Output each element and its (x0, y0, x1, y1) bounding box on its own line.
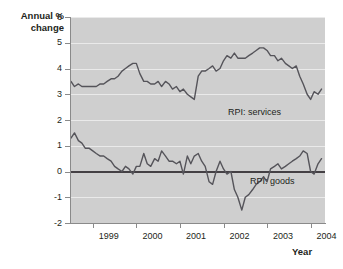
series-label-goods: RPI: goods (250, 176, 295, 186)
y-tick-label: 0 (38, 167, 62, 176)
y-tick-label: 2 (38, 116, 62, 125)
line-rpi-goods (71, 133, 322, 210)
y-tick (65, 94, 70, 95)
y-tick-label: 5 (38, 38, 62, 47)
x-tick (267, 223, 268, 228)
y-tick (65, 146, 70, 147)
x-tick-label: 2000 (142, 231, 182, 241)
x-tick-label: 2004 (317, 231, 343, 241)
series-lines (71, 17, 325, 223)
y-tick (65, 120, 70, 121)
chart-figure: Annual % change 6543210-1-2 199920002001… (0, 0, 343, 269)
y-tick (65, 197, 70, 198)
y-tick (65, 172, 70, 173)
x-tick (224, 223, 225, 228)
x-tick (311, 223, 312, 228)
series-label-services: RPI: services (228, 107, 281, 117)
x-axis-title: Year (292, 246, 312, 257)
y-tick-label: 3 (38, 90, 62, 99)
y-tick (65, 69, 70, 70)
y-tick (65, 17, 70, 18)
x-tick-label: 1999 (99, 231, 139, 241)
x-axis-line (70, 223, 326, 224)
plot-area (71, 17, 325, 223)
x-tick-label: 2001 (186, 231, 226, 241)
x-tick-label: 2003 (273, 231, 313, 241)
x-tick (93, 223, 94, 228)
y-tick-label: 6 (38, 13, 62, 22)
y-tick-label: 1 (38, 141, 62, 150)
y-tick (65, 223, 70, 224)
x-tick (136, 223, 137, 228)
line-rpi-services (71, 48, 322, 100)
x-tick (180, 223, 181, 228)
y-tick-label: -2 (38, 219, 62, 228)
y-tick-label: -1 (38, 193, 62, 202)
y-tick-label: 4 (38, 64, 62, 73)
x-tick-label: 2002 (230, 231, 270, 241)
y-tick (65, 43, 70, 44)
